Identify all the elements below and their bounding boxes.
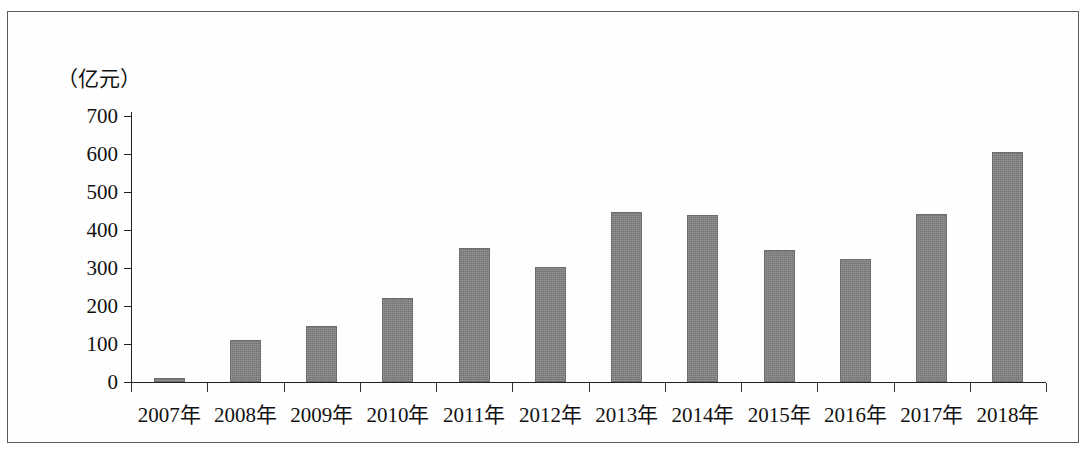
x-axis-tick: [970, 383, 971, 392]
x-axis-tick-label: 2007年: [138, 398, 201, 428]
x-axis-tick: [131, 383, 132, 392]
bar: [154, 378, 185, 382]
bar: [611, 212, 642, 382]
x-axis-tick-label: 2010年: [366, 398, 429, 428]
bar: [764, 250, 795, 382]
x-axis-tick: [665, 383, 666, 392]
y-axis-tick: [124, 192, 132, 193]
x-axis-tick-label: 2018年: [976, 398, 1039, 428]
y-axis-tick: [124, 306, 132, 307]
y-axis-tick-label: 500: [60, 180, 118, 205]
x-axis-tick-label: 2008年: [214, 398, 277, 428]
x-axis-tick: [894, 383, 895, 392]
bar: [306, 326, 337, 382]
y-axis-tick-label: 0: [60, 370, 118, 395]
bar: [382, 298, 413, 382]
y-axis-tick-label: 200: [60, 294, 118, 319]
x-axis-tick-label: 2017年: [900, 398, 963, 428]
bar: [459, 248, 490, 382]
x-axis-tick: [512, 383, 513, 392]
x-axis-tick: [436, 383, 437, 392]
y-axis-tick: [124, 116, 132, 117]
bar: [535, 267, 566, 382]
chart-page: （亿元） 0100200300400500600700 2007年2008年20…: [0, 0, 1089, 453]
bar: [230, 340, 261, 382]
y-axis-tick-label: 100: [60, 332, 118, 357]
bar: [840, 259, 871, 383]
y-axis-tick-label: 600: [60, 142, 118, 167]
x-axis-tick-label: 2012年: [519, 398, 582, 428]
x-axis-tick: [207, 383, 208, 392]
bar: [992, 152, 1023, 382]
bar: [687, 215, 718, 382]
x-axis-tick-label: 2015年: [748, 398, 811, 428]
x-axis-tick-label: 2016年: [824, 398, 887, 428]
y-axis-tick-label: 400: [60, 218, 118, 243]
x-axis-tick-label: 2014年: [671, 398, 734, 428]
y-axis-tick-label: 300: [60, 256, 118, 281]
y-axis-tick-labels: 0100200300400500600700: [56, 0, 118, 453]
x-axis-tick-label: 2011年: [443, 398, 505, 428]
y-axis-tick-label: 700: [60, 104, 118, 129]
x-axis-tick: [817, 383, 818, 392]
y-axis-tick: [124, 154, 132, 155]
x-axis-tick: [741, 383, 742, 392]
y-axis-tick: [124, 344, 132, 345]
y-axis-tick: [124, 230, 132, 231]
x-axis-tick: [1046, 383, 1047, 392]
bar-chart-figure: （亿元） 0100200300400500600700 2007年2008年20…: [0, 0, 1089, 453]
x-axis-tick: [589, 383, 590, 392]
x-axis-tick: [284, 383, 285, 392]
x-axis-tick-label: 2009年: [290, 398, 353, 428]
bar: [916, 214, 947, 382]
x-axis-tick: [360, 383, 361, 392]
y-axis-tick: [124, 268, 132, 269]
x-axis-tick-label: 2013年: [595, 398, 658, 428]
